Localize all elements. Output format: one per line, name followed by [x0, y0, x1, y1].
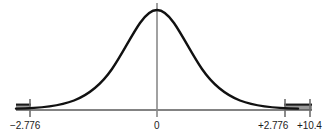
tick-label-test-statistic: +10.4	[297, 120, 322, 131]
distribution-plot	[0, 0, 332, 139]
tick-label-center: 0	[154, 120, 159, 131]
tick-label-right-critical: +2.776	[258, 120, 288, 131]
bell-curve-figure: −2.776 0 +2.776 +10.4	[0, 0, 332, 139]
tick-label-left-critical: −2.776	[10, 120, 40, 131]
